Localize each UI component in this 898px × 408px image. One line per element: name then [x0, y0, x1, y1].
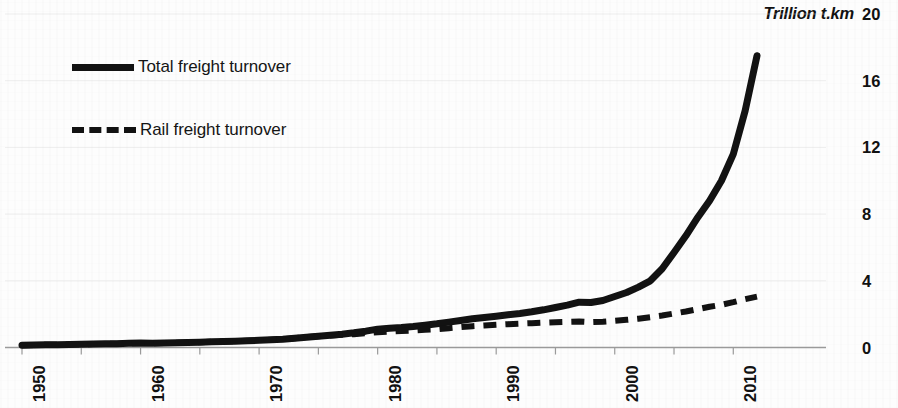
x-tick-label-1970: 1970: [267, 365, 286, 402]
y-tick-label-4: 4: [862, 271, 896, 290]
x-tick-label-2010: 2010: [741, 365, 760, 402]
y-tick-label-8: 8: [862, 205, 896, 224]
legend-line-dashed-icon: [72, 127, 136, 133]
gridlines: [5, 14, 826, 281]
series-line-rail-freight-turnover: [22, 297, 757, 346]
x-tick-label-1980: 1980: [386, 365, 405, 402]
y-tick-label-12: 12: [862, 138, 896, 157]
y-tick-label-20: 20: [862, 5, 896, 24]
x-tick-label-2000: 2000: [623, 365, 642, 402]
legend-label-total-freight-turnover: Total freight turnover: [138, 57, 291, 77]
y-tick-label-0: 0: [862, 338, 896, 357]
legend-line-solid-icon: [72, 64, 134, 71]
legend-item-total-freight-turnover: Total freight turnover: [72, 57, 291, 77]
legend-item-rail-freight-turnover: Rail freight turnover: [72, 120, 286, 140]
series-line-total-freight-turnover: [22, 56, 757, 345]
x-tick-label-1960: 1960: [149, 365, 168, 402]
axis-ticks: [22, 348, 733, 355]
x-tick-label-1990: 1990: [504, 365, 523, 402]
y-tick-label-16: 16: [862, 71, 896, 90]
freight-turnover-chart: Trillion t.km 048121620 1950196019701980…: [0, 0, 898, 408]
x-tick-label-1950: 1950: [30, 365, 49, 402]
legend-label-rail-freight-turnover: Rail freight turnover: [140, 120, 286, 140]
